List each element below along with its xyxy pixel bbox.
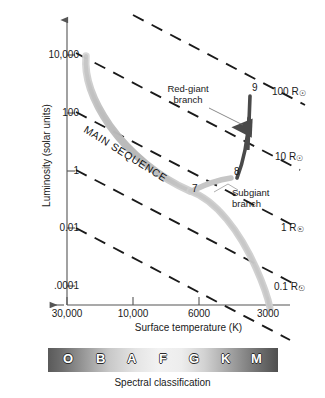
red-giant-branch-upper [249, 96, 250, 122]
constant-radius-lines [76, 15, 305, 340]
stage-label-7: 7 [192, 183, 198, 194]
subgiant-branch-annotation: Subgiant branch [232, 187, 292, 209]
subgiant-branch-line2: branch [232, 198, 292, 209]
x-tick-label-30000: 30,000 [40, 308, 94, 319]
red-giant-branch-line1: Red-giant [158, 83, 218, 94]
sun-symbol-100: ☉ [299, 89, 306, 98]
hr-diagram-figure: Luminosity (solar units) 10,000 100 1 0.… [0, 0, 325, 398]
spectral-class-F: F [159, 351, 167, 366]
red-giant-branch-line2: branch [158, 94, 218, 105]
red-giant-leader-line [209, 108, 243, 125]
x-tick-label-6000: 6000 [175, 308, 223, 319]
spectral-class-M: M [251, 351, 262, 366]
y-tick-label-100: 100 [62, 107, 79, 118]
y-tick-label-0.01: 0.01 [60, 222, 79, 233]
spectral-class-O: O [63, 351, 73, 366]
sun-symbol-0.1: ☉ [298, 284, 305, 293]
radius-label-0.1-text: 0.1 R [274, 281, 298, 292]
radius-label-10-text: 10 R [275, 151, 296, 162]
x-axis-ticks [67, 297, 268, 305]
red-giant-branch-annotation: Red-giant branch [158, 83, 218, 105]
sun-symbol-10: ☉ [296, 154, 303, 163]
stage-label-8: 8 [234, 166, 240, 177]
x-tick-label-10000: 10,000 [106, 308, 160, 319]
x-tick-label-3000: 3000 [244, 308, 292, 319]
spectral-classification-bar: O B A F G K M [48, 348, 278, 372]
y-axis-title: Luminosity (solar units) [41, 66, 52, 246]
spectral-class-G: G [189, 351, 199, 366]
red-giant-branch-arrow [248, 128, 249, 150]
y-tick-label-1: 1 [73, 165, 79, 176]
radius-label-100: 100 R☉ [272, 86, 306, 98]
subgiant-branch-track [194, 178, 231, 190]
spectral-classification-caption: Spectral classification [0, 377, 325, 388]
radius-label-100-text: 100 R [272, 86, 299, 97]
spectral-class-A: A [127, 351, 136, 366]
spectral-class-B: B [96, 351, 105, 366]
x-axis-title: Surface temperature (K) [0, 322, 325, 333]
y-tick-label-0.0001: .0001 [54, 280, 79, 291]
radius-label-10: 10 R☉ [275, 151, 303, 163]
radius-label-0.1: 0.1 R☉ [274, 281, 305, 293]
subgiant-branch-line1: Subgiant [232, 187, 292, 198]
main-sequence-curve-core [86, 56, 190, 191]
y-tick-label-10000: 10,000 [48, 49, 79, 60]
sun-symbol-1: ☉ [297, 225, 304, 234]
radius-line-100 [76, 53, 300, 170]
stage-label-9: 9 [252, 82, 258, 93]
radius-label-1-text: 1 R [281, 222, 297, 233]
radius-label-1: 1 R☉ [281, 222, 304, 234]
spectral-class-K: K [221, 351, 230, 366]
main-sequence-curve [86, 56, 190, 191]
